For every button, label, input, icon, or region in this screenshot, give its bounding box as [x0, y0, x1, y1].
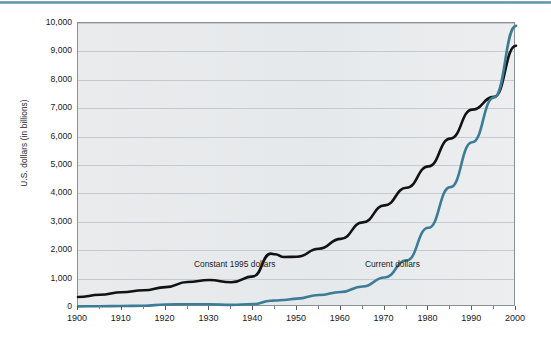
y-tick-label: 4,000 — [20, 187, 72, 197]
chart-figure: U.S. dollars (in billions) 01,0002,0003,… — [0, 0, 551, 344]
top-divider-rule — [0, 1, 551, 4]
x-tick-label: 1970 — [374, 313, 394, 323]
x-tick-major — [77, 306, 78, 310]
y-tick-label: 8,000 — [20, 74, 72, 84]
x-tick-major — [515, 306, 516, 310]
y-tick-label: 10,000 — [20, 17, 72, 27]
x-tick-minor — [274, 306, 275, 309]
x-tick-label: 2000 — [505, 313, 525, 323]
x-tick-major — [121, 306, 122, 310]
x-tick-label: 1990 — [461, 313, 481, 323]
x-tick-minor — [99, 306, 100, 309]
series-line-constant-1995-dollars — [78, 46, 516, 297]
x-tick-minor — [187, 306, 188, 309]
series-line-current-dollars — [78, 26, 516, 307]
series-annotation-current-dollars: Current dollars — [365, 259, 420, 269]
x-tick-major — [340, 306, 341, 310]
x-axis-tick-labels: 1900191019201930194019501960197019801990… — [77, 313, 515, 331]
x-tick-label: 1940 — [242, 313, 262, 323]
x-tick-major — [208, 306, 209, 310]
series-layer — [78, 23, 516, 307]
x-tick-minor — [406, 306, 407, 309]
y-tick-label: 9,000 — [20, 45, 72, 55]
y-tick-label: 7,000 — [20, 102, 72, 112]
x-tick-minor — [318, 306, 319, 309]
y-tick-label: 5,000 — [20, 159, 72, 169]
x-tick-major — [471, 306, 472, 310]
y-axis-tick-labels: 01,0002,0003,0004,0005,0006,0007,0008,00… — [20, 22, 72, 306]
x-tick-label: 1980 — [417, 313, 437, 323]
x-tick-minor — [449, 306, 450, 309]
x-tick-major — [296, 306, 297, 310]
x-tick-major — [165, 306, 166, 310]
y-tick-label: 6,000 — [20, 131, 72, 141]
plot-area — [77, 22, 515, 306]
x-tick-label: 1920 — [155, 313, 175, 323]
x-tick-minor — [362, 306, 363, 309]
x-tick-label: 1950 — [286, 313, 306, 323]
x-tick-label: 1910 — [111, 313, 131, 323]
x-axis-tick-marks — [77, 306, 515, 312]
y-tick-label: 2,000 — [20, 244, 72, 254]
x-tick-label: 1900 — [67, 313, 87, 323]
y-tick-label: 3,000 — [20, 216, 72, 226]
x-tick-label: 1930 — [198, 313, 218, 323]
x-tick-major — [427, 306, 428, 310]
x-tick-minor — [143, 306, 144, 309]
x-tick-major — [252, 306, 253, 310]
x-tick-major — [384, 306, 385, 310]
x-tick-minor — [493, 306, 494, 309]
x-tick-label: 1960 — [330, 313, 350, 323]
series-annotation-constant-1995-dollars: Constant 1995 dollars — [194, 259, 275, 269]
y-tick-label: 0 — [20, 301, 72, 311]
x-tick-minor — [230, 306, 231, 309]
y-tick-label: 1,000 — [20, 273, 72, 283]
